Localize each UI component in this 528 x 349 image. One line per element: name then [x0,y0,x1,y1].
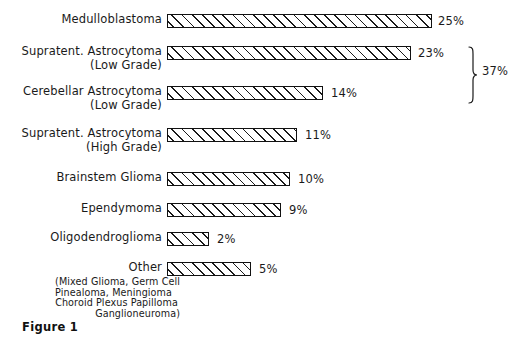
category-label: Brainstem Glioma [0,171,162,185]
bar-supratentorial-astrocytoma-low-grade [167,46,411,60]
other-detail-list: (Mixed Glioma, Germ Cell Pinealoma, Meni… [0,277,182,319]
category-label: Other [0,261,162,275]
bar-value-label: 5% [259,262,278,276]
category-label-line1: Other [129,260,162,274]
category-label-line2: (Low Grade) [0,99,162,113]
bar-cerebellar-astrocytoma-low-grade [167,86,323,100]
bar-medulloblastoma [167,14,432,28]
category-label-line2: (Low Grade) [0,59,162,73]
bar-ependymoma [167,203,281,217]
category-label-line1: Medulloblastoma [61,12,162,26]
category-label: Medulloblastoma [0,13,162,27]
category-label-line1: Oligodendroglioma [50,230,162,244]
figure-bar-chart: Medulloblastoma 25% Supratent. Astrocyto… [0,0,528,349]
other-detail-line-4: Ganglioneuroma) [0,309,182,320]
group-total-label: 37% [482,64,508,78]
bar-value-label: 2% [217,232,236,246]
bar-other [167,262,251,276]
bar-value-label: 9% [289,203,308,217]
other-detail-line-1: (Mixed Glioma, Germ Cell [0,277,182,288]
group-brace-icon [466,46,480,104]
bar-supratentorial-astrocytoma-high-grade [167,128,297,142]
category-label: Oligodendroglioma [0,231,162,245]
bar-value-label: 14% [331,86,357,100]
category-label-line1: Supratent. Astrocytoma [0,45,162,59]
bar-value-label: 10% [298,172,324,186]
category-label: Supratent. Astrocytoma (High Grade) [0,127,162,154]
figure-caption: Figure 1 [22,320,78,334]
category-label-line2: (High Grade) [0,141,162,155]
category-label-line1: Cerebellar Astrocytoma [0,85,162,99]
category-label: Supratent. Astrocytoma (Low Grade) [0,45,162,72]
bar-oligodendroglioma [167,232,209,246]
bar-value-label: 11% [305,128,331,142]
bar-brainstem-glioma [167,172,290,186]
category-label: Ependymoma [0,202,162,216]
bar-value-label: 23% [418,46,444,60]
category-label-line1: Supratent. Astrocytoma [0,127,162,141]
category-label-line1: Brainstem Glioma [56,170,162,184]
bar-value-label: 25% [438,14,464,28]
category-label: Cerebellar Astrocytoma (Low Grade) [0,85,162,112]
category-label-line1: Ependymoma [81,201,162,215]
